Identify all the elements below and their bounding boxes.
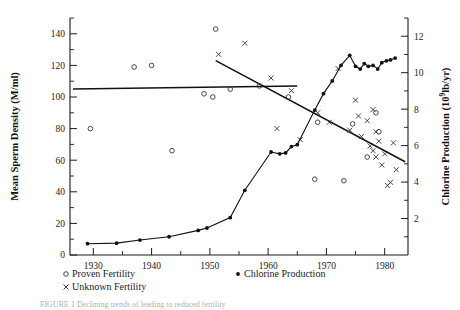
data-point-chlorine-production bbox=[389, 58, 393, 62]
data-point-unknown-fertility bbox=[274, 126, 279, 131]
data-point-unknown-fertility bbox=[373, 155, 378, 160]
figure-container: 0204060801001201402468101219301940195019… bbox=[0, 0, 460, 310]
data-point-chlorine-production bbox=[205, 226, 209, 230]
right-axis-tick-label: 12 bbox=[414, 32, 424, 42]
left-axis-tick-label: 80 bbox=[56, 124, 66, 134]
data-point-proven-fertility bbox=[312, 177, 317, 182]
data-point-chlorine-production bbox=[115, 241, 119, 245]
data-point-chlorine-production bbox=[284, 151, 288, 155]
left-axis-tick-label: 100 bbox=[51, 92, 66, 102]
legend-label-x: Unknown Fertility bbox=[72, 281, 146, 292]
data-point-chlorine-production bbox=[228, 216, 232, 220]
data-point-chlorine-production bbox=[322, 92, 326, 96]
data-point-proven-fertility bbox=[342, 178, 347, 183]
data-point-chlorine-production bbox=[371, 64, 375, 68]
data-point-unknown-fertility bbox=[356, 113, 361, 118]
left-axis-tick-label: 40 bbox=[56, 187, 66, 197]
left-axis-tick-label: 20 bbox=[56, 219, 66, 229]
chart-legend: Proven FertilityUnknown FertilityChlorin… bbox=[64, 268, 326, 292]
data-point-chlorine-production bbox=[269, 150, 273, 154]
data-point-unknown-fertility bbox=[382, 151, 387, 156]
data-point-proven-fertility bbox=[286, 95, 291, 100]
data-point-proven-fertility bbox=[350, 122, 355, 127]
data-point-chlorine-production bbox=[380, 61, 384, 65]
data-point-proven-fertility bbox=[132, 65, 137, 70]
trend-line-declining-trend bbox=[216, 61, 405, 162]
data-point-unknown-fertility bbox=[376, 139, 381, 144]
data-point-unknown-fertility bbox=[353, 98, 358, 103]
data-point-chlorine-production bbox=[138, 238, 142, 242]
data-point-unknown-fertility bbox=[269, 76, 274, 81]
left-axis-tick-label: 120 bbox=[51, 61, 66, 71]
legend-label-open-circle: Proven Fertility bbox=[72, 268, 135, 279]
right-axis-tick-label: 6 bbox=[414, 141, 419, 151]
data-point-unknown-fertility bbox=[371, 107, 376, 112]
data-point-chlorine-production bbox=[278, 152, 282, 156]
data-point-unknown-fertility bbox=[371, 148, 376, 153]
x-axis-tick-label: 1950 bbox=[200, 261, 219, 271]
data-point-unknown-fertility bbox=[289, 88, 294, 93]
x-axis-tick-label: 1980 bbox=[375, 261, 394, 271]
data-point-chlorine-production bbox=[393, 56, 397, 60]
data-point-chlorine-production bbox=[167, 235, 171, 239]
series-unknown-fertility bbox=[216, 41, 399, 188]
data-point-unknown-fertility bbox=[242, 41, 247, 46]
data-point-unknown-fertility bbox=[373, 129, 378, 134]
data-point-proven-fertility bbox=[365, 155, 370, 160]
legend-marker-open-circle-icon bbox=[64, 272, 69, 277]
data-point-proven-fertility bbox=[170, 148, 175, 153]
series-chlorine-production bbox=[86, 53, 397, 245]
data-point-chlorine-production bbox=[313, 108, 317, 112]
series-proven-fertility bbox=[88, 27, 381, 183]
data-point-unknown-fertility bbox=[388, 180, 393, 185]
data-point-chlorine-production bbox=[354, 64, 358, 68]
data-point-chlorine-production bbox=[376, 67, 380, 71]
left-axis-title: Mean Sperm Density (M/ml) bbox=[9, 72, 21, 201]
data-point-chlorine-production bbox=[290, 145, 294, 149]
data-point-chlorine-production bbox=[358, 67, 362, 71]
data-point-chlorine-production bbox=[330, 79, 334, 83]
data-point-chlorine-production bbox=[348, 53, 352, 57]
data-point-proven-fertility bbox=[315, 120, 320, 125]
data-point-unknown-fertility bbox=[365, 118, 370, 123]
data-point-unknown-fertility bbox=[216, 52, 221, 57]
right-axis-tick-label: 10 bbox=[414, 68, 424, 78]
data-point-proven-fertility bbox=[149, 63, 154, 68]
left-axis-tick-label: 0 bbox=[60, 250, 65, 260]
sperm-density-chlorine-chart: 0204060801001201402468101219301940195019… bbox=[0, 0, 460, 310]
x-axis-tick-label: 1940 bbox=[142, 261, 161, 271]
data-point-chlorine-production bbox=[86, 242, 90, 246]
left-axis-tick-label: 60 bbox=[56, 156, 66, 166]
data-point-unknown-fertility bbox=[394, 167, 399, 172]
data-point-chlorine-production bbox=[366, 64, 370, 68]
data-point-proven-fertility bbox=[213, 27, 218, 32]
data-point-proven-fertility bbox=[88, 126, 93, 131]
data-point-chlorine-production bbox=[243, 188, 247, 192]
left-axis-tick-label: 140 bbox=[51, 29, 66, 39]
right-axis-title: Chlorine Production (109lb/yr) bbox=[438, 67, 453, 205]
data-point-chlorine-production bbox=[362, 62, 366, 66]
data-point-unknown-fertility bbox=[379, 162, 384, 167]
data-point-chlorine-production bbox=[339, 64, 343, 68]
figure-caption: FIGURE 1 Declining trends of leading to … bbox=[40, 300, 226, 309]
data-point-proven-fertility bbox=[210, 95, 215, 100]
legend-label-filled-dot: Chlorine Production bbox=[244, 268, 325, 279]
legend-marker-filled-dot-icon bbox=[236, 272, 240, 276]
right-axis-tick-label: 4 bbox=[414, 177, 419, 187]
right-axis-tick-label: 2 bbox=[414, 214, 419, 224]
data-point-chlorine-production bbox=[196, 228, 200, 232]
data-point-chlorine-production bbox=[385, 59, 389, 63]
data-point-unknown-fertility bbox=[391, 140, 396, 145]
right-axis-tick-label: 8 bbox=[414, 105, 419, 115]
chlorine-production-line bbox=[87, 55, 395, 243]
data-point-proven-fertility bbox=[202, 92, 207, 97]
data-point-chlorine-production bbox=[295, 143, 299, 147]
legend-marker-x-icon bbox=[64, 285, 69, 290]
data-point-unknown-fertility bbox=[368, 143, 373, 148]
